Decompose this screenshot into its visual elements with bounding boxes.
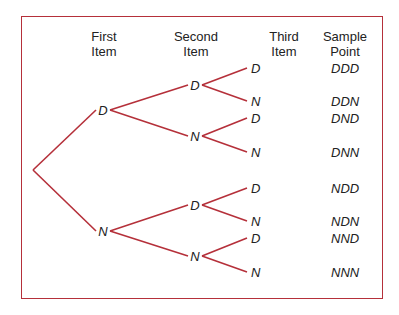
sample-point-nnd: NND [331, 231, 359, 246]
header-second-line1: Second [168, 29, 224, 44]
branch-second-to-third-3 [202, 136, 247, 152]
branch-second-to-third-4 [202, 188, 247, 205]
sample-point-ndn: NDN [331, 214, 359, 229]
header-second-item: Second Item [168, 29, 224, 59]
sample-point-ddd: DDD [331, 61, 359, 76]
sample-point-dnd: DND [331, 111, 359, 126]
sample-point-ddn: DDN [331, 94, 359, 109]
branch-second-to-third-1 [202, 85, 247, 101]
first-item-node-n: N [97, 224, 108, 239]
third-item-node-3: N [250, 145, 261, 160]
branch-first-to-second-1 [110, 110, 188, 136]
header-sample-point: Sample Point [320, 29, 370, 59]
first-item-node-d: D [97, 103, 108, 118]
branch-second-to-third-0 [202, 68, 247, 85]
branch-first-to-second-2 [110, 205, 188, 231]
header-first-line1: First [86, 29, 122, 44]
branch-first-to-second-0 [110, 85, 188, 110]
branch-second-to-third-6 [202, 238, 247, 256]
second-item-node-0: D [189, 78, 200, 93]
second-item-node-3: N [189, 249, 200, 264]
branch-second-to-third-5 [202, 205, 247, 221]
branch-first-to-second-3 [110, 231, 188, 256]
third-item-node-5: N [250, 214, 261, 229]
third-item-node-1: N [250, 94, 261, 109]
branch-root-to-first-0 [33, 110, 96, 170]
sample-point-dnn: DNN [331, 145, 359, 160]
third-item-node-2: D [250, 111, 261, 126]
third-item-node-7: N [250, 265, 261, 280]
third-item-node-6: D [250, 231, 261, 246]
header-first-line2: Item [86, 44, 122, 59]
header-second-line2: Item [168, 44, 224, 59]
header-third-item: Third Item [264, 29, 304, 59]
second-item-node-1: N [189, 129, 200, 144]
header-third-line1: Third [264, 29, 304, 44]
header-sample-line2: Point [320, 44, 370, 59]
header-third-line2: Item [264, 44, 304, 59]
header-first-item: First Item [86, 29, 122, 59]
branch-second-to-third-7 [202, 256, 247, 272]
branch-second-to-third-2 [202, 118, 247, 136]
third-item-node-4: D [250, 181, 261, 196]
sample-point-ndd: NDD [331, 181, 359, 196]
branch-root-to-first-1 [33, 170, 96, 231]
header-sample-line1: Sample [320, 29, 370, 44]
second-item-node-2: D [189, 198, 200, 213]
third-item-node-0: D [250, 61, 261, 76]
sample-point-nnn: NNN [331, 265, 359, 280]
